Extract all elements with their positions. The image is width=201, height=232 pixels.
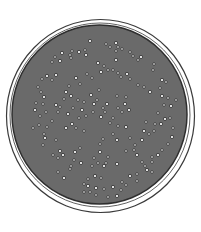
colony (115, 50, 118, 53)
colony (71, 50, 74, 53)
colony (51, 79, 54, 82)
colony (86, 73, 89, 76)
colony (45, 74, 48, 77)
colony (129, 51, 132, 54)
colony (92, 111, 95, 114)
colony (132, 55, 135, 58)
colony (156, 153, 159, 156)
colony (121, 111, 124, 114)
colony (136, 180, 139, 183)
colony (85, 115, 88, 118)
colony (42, 103, 45, 106)
colony (78, 117, 81, 120)
colony (99, 115, 102, 118)
colony (145, 168, 148, 171)
colony (144, 165, 147, 168)
colony (152, 69, 155, 72)
colony (137, 84, 140, 87)
colony (39, 115, 42, 118)
colony (160, 78, 163, 81)
colony (58, 59, 61, 62)
colony (125, 150, 128, 153)
colony (115, 138, 118, 141)
colony (89, 191, 92, 194)
colony (33, 108, 36, 111)
colony (43, 136, 46, 139)
colony (107, 196, 110, 199)
colony (32, 127, 35, 130)
colony (97, 162, 100, 165)
colony (75, 127, 78, 130)
colony (107, 69, 110, 72)
colony (62, 176, 65, 179)
colony (83, 101, 86, 104)
colony (143, 86, 146, 89)
colony (145, 121, 148, 124)
colony (73, 159, 76, 162)
agar-medium (12, 25, 187, 204)
colony (86, 184, 89, 187)
colony (124, 125, 127, 128)
colony (117, 72, 120, 75)
colony (91, 165, 94, 168)
colony (170, 135, 173, 138)
colony (79, 83, 82, 86)
colony (57, 111, 60, 114)
colony (114, 58, 117, 61)
colony (151, 161, 154, 164)
colony (172, 127, 175, 130)
colony (117, 125, 120, 128)
colony (102, 138, 105, 141)
colony (99, 143, 102, 146)
colony (151, 156, 154, 159)
colony (68, 85, 71, 88)
colony (140, 138, 143, 141)
colony (41, 78, 44, 81)
petri-dish-figure: Petri dish with bacterial colonies (0, 0, 201, 232)
colony (125, 96, 128, 99)
colony (72, 107, 75, 110)
colony (116, 95, 119, 98)
colony (125, 184, 128, 187)
colony (58, 149, 61, 152)
colony (133, 149, 136, 152)
colony (91, 77, 94, 80)
colony (93, 174, 96, 177)
colony (121, 48, 124, 51)
colony (153, 63, 156, 66)
colony (175, 99, 178, 102)
colony (96, 61, 99, 64)
colony (98, 89, 101, 92)
colony (69, 168, 72, 171)
colony (74, 76, 77, 79)
colony (117, 107, 120, 110)
colony (111, 185, 114, 188)
colony (51, 120, 54, 123)
colony (112, 69, 115, 72)
colony (54, 103, 57, 106)
colony (167, 143, 170, 146)
colony (40, 91, 43, 94)
colony (80, 108, 83, 111)
colony (125, 72, 128, 75)
colony (153, 130, 156, 133)
colony (107, 156, 110, 159)
colony (167, 97, 170, 100)
colony (73, 150, 76, 153)
colony (61, 153, 64, 156)
colony (120, 76, 123, 79)
colony (57, 157, 60, 160)
colony (105, 43, 108, 46)
colony (148, 90, 151, 93)
colony (129, 137, 132, 140)
colony (51, 61, 54, 64)
colony (54, 56, 57, 59)
colony (59, 106, 62, 109)
colony (114, 41, 117, 44)
colony (52, 154, 55, 157)
colony (103, 65, 106, 68)
colony (84, 53, 87, 56)
colony (83, 191, 86, 194)
colony (79, 147, 82, 150)
colony (160, 94, 163, 97)
